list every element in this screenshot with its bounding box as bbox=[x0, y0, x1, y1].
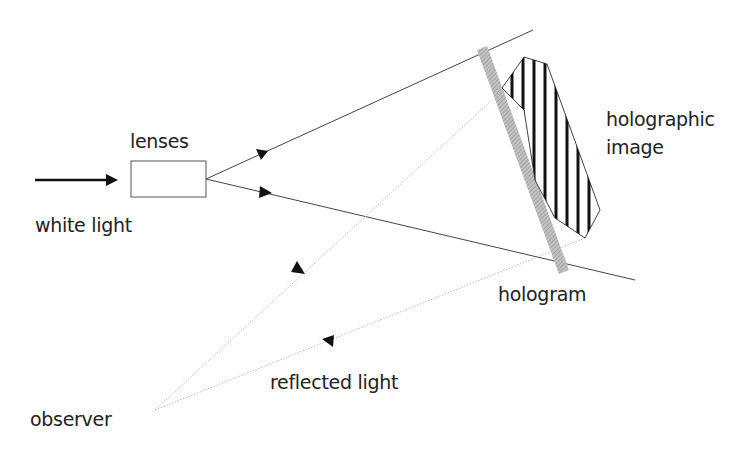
label-image: image bbox=[606, 136, 664, 158]
ray-arrow-lower bbox=[259, 186, 272, 198]
white-light-arrow bbox=[35, 174, 118, 186]
reflected-arrow-lower bbox=[322, 335, 334, 347]
label-white-light: white light bbox=[35, 214, 132, 236]
lenses-box bbox=[131, 161, 206, 197]
label-hologram: hologram bbox=[498, 283, 586, 305]
reflected-arrow-upper bbox=[291, 261, 305, 274]
label-reflected-light: reflected light bbox=[270, 371, 398, 393]
label-lenses: lenses bbox=[130, 130, 189, 152]
ray-arrow-upper bbox=[256, 149, 268, 160]
label-holographic: holographic bbox=[606, 108, 715, 130]
label-observer: observer bbox=[30, 408, 111, 430]
